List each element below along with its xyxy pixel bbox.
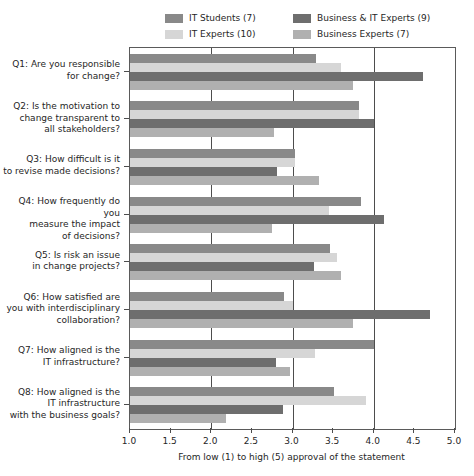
y-axis-label-line: Q3: How difficult is it: [0, 154, 120, 166]
bar-group: [130, 340, 455, 376]
bar: [130, 405, 283, 414]
x-axis-tick-label: 3.0: [272, 436, 312, 446]
bar: [130, 271, 341, 280]
y-axis-label-line: with the business goals?: [0, 410, 120, 422]
chart-legend: IT Students (7) Business & IT Experts (9…: [165, 10, 465, 42]
x-axis-tick-label: 4.0: [353, 436, 393, 446]
x-axis-tick: [251, 428, 252, 433]
bar: [130, 387, 334, 396]
x-axis-tick: [373, 428, 374, 433]
bar: [130, 349, 315, 358]
y-axis-label-line: Q7: How aligned is the: [0, 345, 120, 357]
bar-chart: IT Students (7) Business & IT Experts (9…: [0, 0, 474, 476]
bar: [130, 396, 366, 405]
x-axis-tick-label: 2.0: [190, 436, 230, 446]
x-axis-tick: [129, 428, 130, 433]
bar: [130, 262, 314, 271]
y-axis-label: Q2: Is the motivation tochange transpare…: [0, 101, 120, 136]
bar: [130, 197, 361, 206]
bar-group: [130, 54, 455, 90]
y-axis-label: Q8: How aligned is theIT infrastructurew…: [0, 387, 120, 422]
y-axis-label-line: all stakeholders?: [0, 124, 120, 136]
x-axis-tick-label: 3.5: [312, 436, 352, 446]
x-axis-tick-label: 5.0: [434, 436, 474, 446]
y-axis-label: Q1: Are you responsiblefor change?: [0, 59, 120, 82]
legend-label-it-experts: IT Experts (10): [189, 29, 256, 39]
x-axis-tick-label: 1.0: [109, 436, 149, 446]
bar: [130, 414, 226, 423]
bar: [130, 358, 276, 367]
bar: [130, 81, 353, 90]
bar: [130, 224, 272, 233]
bar: [130, 101, 359, 110]
y-axis-label-line: change transparent to: [0, 113, 120, 125]
x-axis-tick: [292, 428, 293, 433]
legend-label-business-experts: Business Experts (7): [317, 29, 409, 39]
y-axis-label: Q3: How difficult is itto revise made de…: [0, 154, 120, 177]
y-axis-label-line: to revise made decisions?: [0, 166, 120, 178]
legend-entry-it-experts: IT Experts (10): [165, 29, 293, 39]
x-axis-tick: [332, 428, 333, 433]
bar: [130, 244, 330, 253]
legend-label-business-it-experts: Business & IT Experts (9): [317, 13, 430, 23]
y-axis-label-line: Q8: How aligned is the: [0, 387, 120, 399]
bar-group: [130, 101, 455, 137]
bar: [130, 215, 384, 224]
bar: [130, 319, 353, 328]
legend-entry-business-experts: Business Experts (7): [293, 29, 463, 39]
bar: [130, 128, 274, 137]
bar-group: [130, 197, 455, 233]
legend-swatch-it-experts: [165, 30, 183, 39]
bar: [130, 149, 295, 158]
y-axis-label: Q7: How aligned is theIT infrastructure?: [0, 345, 120, 368]
y-axis-label-line: Q1: Are you responsible: [0, 59, 120, 71]
bar: [130, 72, 423, 81]
y-axis-label-line: Q5: Is risk an issue: [0, 250, 120, 262]
y-axis-label-line: of decisions?: [0, 231, 120, 243]
x-axis-tick: [210, 428, 211, 433]
bar: [130, 110, 359, 119]
y-axis-label-line: you with interdisciplinary: [0, 303, 120, 315]
bar: [130, 206, 329, 215]
x-axis-tick: [413, 428, 414, 433]
bar-group: [130, 292, 455, 328]
bar: [130, 167, 277, 176]
y-axis-label-line: in change projects?: [0, 261, 120, 273]
y-axis-label-line: Q4: How frequently do you: [0, 196, 120, 219]
y-axis-label-line: collaboration?: [0, 315, 120, 327]
x-axis-tick: [454, 428, 455, 433]
y-axis-label: Q5: Is risk an issuein change projects?: [0, 250, 120, 273]
x-axis-tick: [170, 428, 171, 433]
y-axis-label-line: IT infrastructure: [0, 398, 120, 410]
bar: [130, 301, 293, 310]
bar: [130, 310, 430, 319]
y-axis-label: Q4: How frequently do youmeasure the imp…: [0, 196, 120, 242]
bar: [130, 63, 341, 72]
x-axis-tick-label: 2.5: [231, 436, 271, 446]
legend-entry-it-students: IT Students (7): [165, 13, 293, 23]
legend-entry-business-it-experts: Business & IT Experts (9): [293, 13, 463, 23]
legend-swatch-business-it-experts: [293, 14, 311, 23]
y-axis-label-line: IT infrastructure?: [0, 357, 120, 369]
legend-label-it-students: IT Students (7): [189, 13, 256, 23]
y-axis-label-line: Q6: How satisfied are: [0, 292, 120, 304]
y-axis-label-line: Q2: Is the motivation to: [0, 101, 120, 113]
bar-group: [130, 149, 455, 185]
y-axis-label: Q6: How satisfied areyou with interdisci…: [0, 292, 120, 327]
bar: [130, 119, 374, 128]
bar: [130, 340, 374, 349]
y-axis-labels: Q1: Are you responsiblefor change?Q2: Is…: [0, 0, 122, 476]
bar: [130, 292, 284, 301]
x-axis-tick-label: 1.5: [150, 436, 190, 446]
bar: [130, 253, 337, 262]
plot-area: [129, 47, 456, 430]
bar-group: [130, 387, 455, 423]
bar: [130, 158, 295, 167]
y-axis-label-line: for change?: [0, 71, 120, 83]
y-axis-label-line: measure the impact: [0, 219, 120, 231]
legend-swatch-business-experts: [293, 30, 311, 39]
legend-swatch-it-students: [165, 14, 183, 23]
bar: [130, 367, 290, 376]
bar: [130, 176, 319, 185]
x-axis-tick-label: 4.5: [393, 436, 433, 446]
